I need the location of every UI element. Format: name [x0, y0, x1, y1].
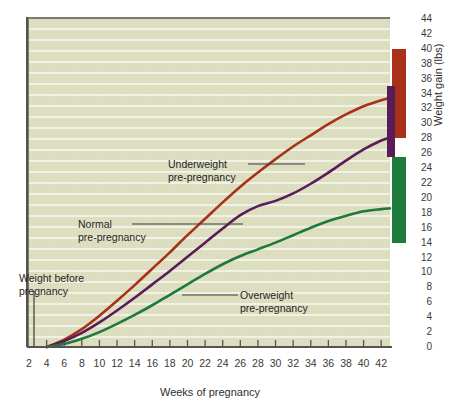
normal-annotation-line2: pre-pregnancy: [78, 231, 146, 244]
y-tick-label: 0: [410, 342, 432, 352]
y-tick-label: 26: [410, 148, 432, 158]
x-tick-label: 42: [370, 358, 392, 369]
overweight-annotation: Overweight pre-pregnancy: [240, 289, 308, 315]
y-tick-label: 32: [410, 103, 432, 113]
axis-tick-marks: [47, 340, 382, 347]
weight-before-annotation-line1: Weight before: [19, 272, 84, 285]
underweight-annotation-line2: pre-pregnancy: [168, 171, 236, 184]
y-tick-label: 2: [410, 327, 432, 337]
underweight-annotation: Underweight pre-pregnancy: [168, 158, 236, 184]
annotation-leader-lines: [34, 164, 305, 347]
y-tick-label: 42: [410, 29, 432, 39]
y-tick-label: 34: [410, 89, 432, 99]
y-tick-label: 20: [410, 193, 432, 203]
weight-before-annotation: Weight before pregnancy: [19, 272, 84, 298]
y-tick-label: 12: [410, 253, 432, 263]
weight-before-annotation-line2: pregnancy: [19, 285, 84, 298]
x-axis-title: Weeks of pregnancy: [0, 386, 420, 398]
y-tick-label: 16: [410, 223, 432, 233]
y-tick-label: 24: [410, 163, 432, 173]
underweight-annotation-line1: Underweight: [168, 158, 236, 171]
y-tick-label: 40: [410, 44, 432, 54]
y-tick-label: 14: [410, 238, 432, 248]
y-tick-label: 22: [410, 178, 432, 188]
y-axis-tick-labels: 0246810121416182022242628303234363840424…: [406, 0, 432, 409]
overweight-annotation-line2: pre-pregnancy: [240, 302, 308, 315]
y-tick-label: 10: [410, 267, 432, 277]
overweight-range: [392, 157, 406, 243]
y-tick-label: 4: [410, 312, 432, 322]
normal-range: [387, 86, 395, 157]
overweight-annotation-line1: Overweight: [240, 289, 308, 302]
y-tick-label: 8: [410, 282, 432, 292]
normal-annotation: Normal pre-pregnancy: [78, 218, 146, 244]
y-tick-label: 28: [410, 133, 432, 143]
y-axis-title: Weight gain (lbs): [432, 44, 444, 126]
y-tick-label: 18: [410, 208, 432, 218]
normal-annotation-line1: Normal: [78, 218, 146, 231]
y-tick-label: 38: [410, 59, 432, 69]
y-tick-label: 6: [410, 297, 432, 307]
y-tick-label: 36: [410, 74, 432, 84]
pregnancy-weight-gain-chart: 0246810121416182022242628303234363840424…: [0, 0, 462, 409]
y-tick-label: 44: [410, 14, 432, 24]
y-tick-label: 30: [410, 118, 432, 128]
